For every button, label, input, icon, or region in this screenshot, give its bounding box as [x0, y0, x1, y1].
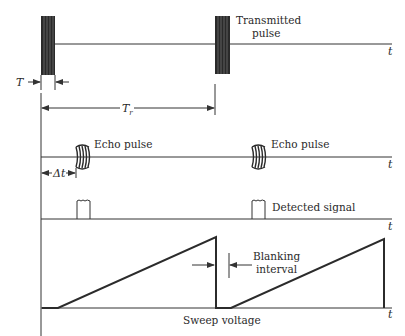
transmitted-label: Transmitted: [236, 14, 301, 26]
time-axis-label: t: [388, 158, 393, 171]
echo-pulse-label-1: Echo pulse: [94, 138, 152, 150]
transmitted-label-2: pulse: [252, 27, 280, 39]
blanking-label-2: interval: [256, 263, 298, 275]
radar-timing-diagram: Transmitted pulse t T Tr Echo pulse Echo…: [0, 0, 405, 336]
transmitted-pulse-row: Transmitted pulse t: [41, 14, 393, 75]
sweep-voltage-row: Blanking interval Sweep voltage t: [41, 237, 393, 326]
echo-pulse-label-2: Echo pulse: [271, 138, 329, 150]
transmitted-pulse-1: [41, 16, 55, 75]
pulse-width-label: T: [16, 76, 25, 89]
sweep-voltage-label: Sweep voltage: [183, 314, 261, 326]
echo-pulse-row: Echo pulse Echo pulse t: [41, 138, 393, 171]
delay-annotation: Δt: [42, 167, 76, 180]
detected-pulse-1: [77, 200, 90, 219]
time-axis-label: t: [388, 220, 393, 233]
repetition-period-label: Tr: [122, 102, 133, 117]
transmitted-pulse-2: [215, 16, 230, 74]
repetition-period-annotation: Tr: [41, 84, 215, 336]
delay-label: Δt: [52, 167, 66, 180]
detected-signal-row: Detected signal t: [41, 200, 393, 233]
pulse-width-annotation: T: [16, 75, 69, 90]
blanking-label-1: Blanking: [253, 250, 301, 262]
sweep-sawtooth: [42, 237, 384, 308]
detected-signal-label: Detected signal: [272, 201, 356, 213]
detected-pulse-2: [252, 200, 265, 219]
time-axis-label: t: [388, 45, 393, 58]
time-axis-label: t: [388, 308, 393, 321]
